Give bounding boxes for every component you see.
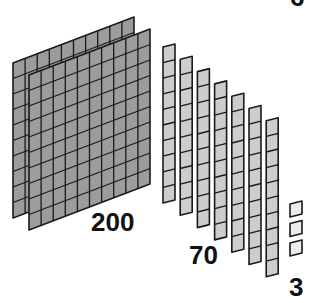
tens-label: 70 bbox=[189, 242, 218, 268]
ones-units bbox=[290, 201, 302, 256]
unit-block bbox=[290, 221, 302, 237]
ones-label: 3 bbox=[289, 274, 303, 300]
hundreds-flats bbox=[13, 17, 150, 230]
base-ten-blocks-diagram: 6 200 70 3 bbox=[0, 0, 309, 303]
hundreds-label: 200 bbox=[91, 209, 134, 235]
clipped-top-label: 6 bbox=[290, 0, 304, 10]
tens-rods bbox=[163, 44, 278, 277]
unit-block bbox=[290, 240, 302, 256]
unit-block bbox=[290, 201, 302, 217]
blocks-illustration bbox=[0, 0, 309, 303]
